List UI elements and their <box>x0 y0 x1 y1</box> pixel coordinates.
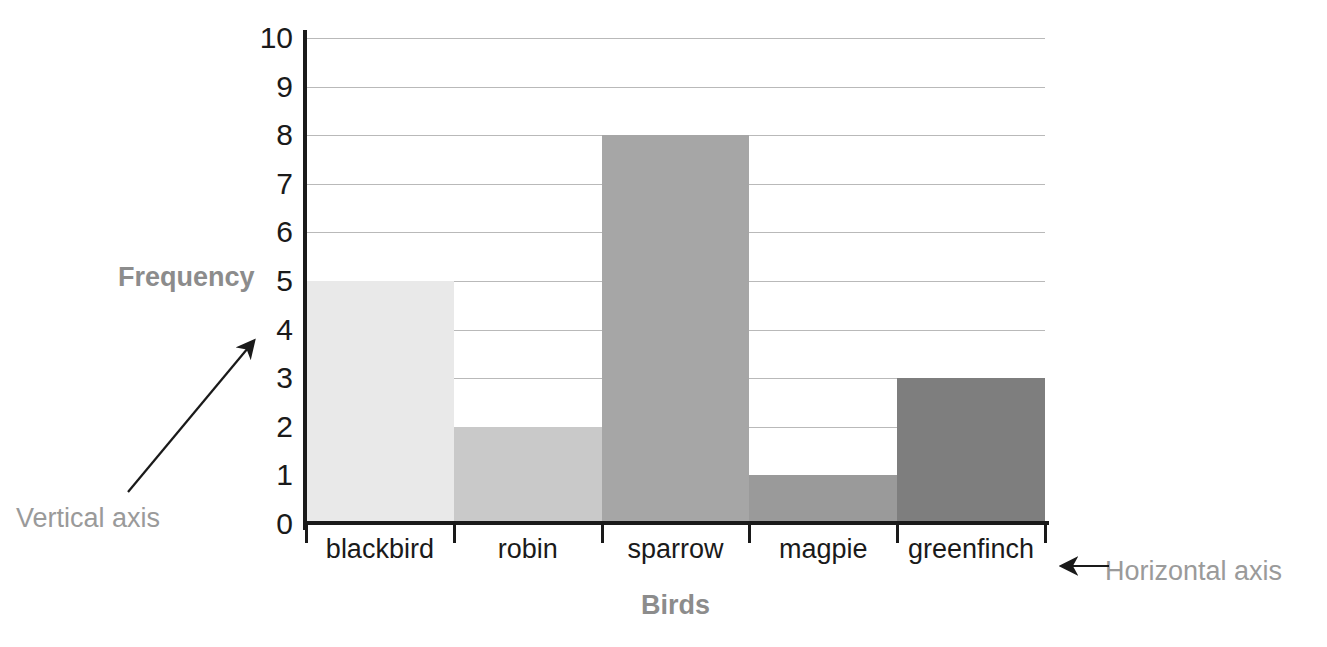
y-axis-tick-label: 7 <box>253 169 293 199</box>
bar <box>306 281 454 524</box>
vertical-axis-line <box>303 30 307 530</box>
bar <box>602 135 750 524</box>
horizontal-axis-annotation-label: Horizontal axis <box>1105 558 1282 585</box>
bar <box>897 378 1045 524</box>
bar-chart: 109876543210 blackbirdrobinsparrowmagpie… <box>0 0 1327 647</box>
gridline <box>306 38 1045 39</box>
horizontal-axis-annotation-arrow <box>1055 552 1115 582</box>
vertical-axis-annotation-arrow <box>110 330 270 505</box>
x-axis-tick-label: robin <box>454 536 602 563</box>
y-axis-tick-label: 9 <box>253 72 293 102</box>
y-axis-tick-label: 0 <box>253 509 293 539</box>
plot-area <box>306 38 1045 524</box>
gridline <box>306 87 1045 88</box>
horizontal-axis-line <box>303 521 1049 525</box>
bar <box>454 427 602 524</box>
x-axis-tick-label: sparrow <box>602 536 750 563</box>
vertical-axis-annotation-label: Vertical axis <box>16 505 160 532</box>
x-axis-tick-label: magpie <box>749 536 897 563</box>
bar <box>749 475 897 524</box>
x-axis-tick-label: greenfinch <box>897 536 1045 563</box>
y-axis-title: Frequency <box>118 264 255 291</box>
x-axis-tick-label: blackbird <box>306 536 454 563</box>
y-axis-tick-label: 10 <box>253 23 293 53</box>
x-axis-title: Birds <box>0 592 1327 619</box>
y-axis-tick-label: 8 <box>253 120 293 150</box>
y-axis-tick-label: 6 <box>253 217 293 247</box>
y-axis-tick-label: 5 <box>253 266 293 296</box>
